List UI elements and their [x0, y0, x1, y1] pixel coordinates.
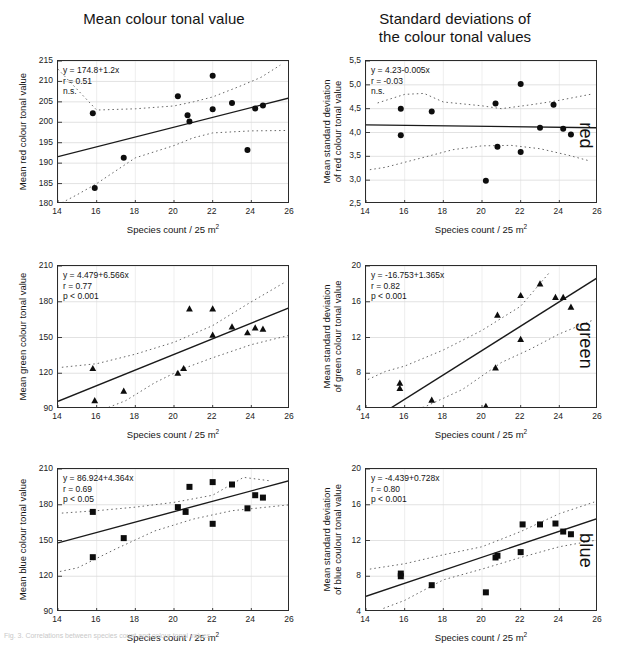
x-tick-label: 16 [399, 411, 408, 421]
y-tick-label: 4 [329, 403, 361, 413]
x-tick-label: 26 [284, 411, 293, 421]
x-tick-label: 20 [168, 411, 177, 421]
annotation-equation: y = 86.924+4.364x [63, 473, 133, 484]
plot-canvas-red-mean [58, 61, 289, 203]
y-axis-label-line1: Mean standard deviation [321, 468, 332, 611]
y-tick-label: 90 [21, 606, 53, 616]
data-point [90, 554, 96, 560]
data-point [493, 554, 499, 560]
data-point [252, 492, 258, 498]
data-point [482, 403, 489, 408]
annotation-p: n.s. [63, 86, 119, 97]
data-point [520, 521, 526, 527]
x-tick-label: 20 [476, 206, 485, 216]
data-point [186, 484, 192, 490]
annotation-equation: y = -4.439+0.728x [371, 473, 440, 484]
x-tick-label: 26 [592, 206, 601, 216]
data-point [398, 106, 404, 112]
y-axis-label-green-sd: Mean standard deviationof green colour t… [321, 265, 343, 408]
data-point [568, 304, 575, 310]
data-point [396, 379, 403, 385]
y-tick-label: 20 [329, 463, 361, 473]
data-point [492, 364, 499, 370]
data-point [428, 396, 435, 402]
annotation-equation: y = 174.8+1.2x [63, 65, 119, 76]
data-point [183, 509, 189, 515]
figure-caption: Fig. 3. Correlations between species cou… [4, 632, 212, 639]
confidence-band-upper [58, 65, 280, 110]
column-title-left: Mean colour tonal value [24, 10, 304, 28]
confidence-band-upper [368, 272, 550, 379]
annotation-red-mean: y = 174.8+1.2xr = 0.51n.s. [63, 65, 119, 97]
x-axis-label-superscript: 2 [216, 631, 220, 638]
x-axis-label-superscript: 2 [216, 223, 220, 230]
x-axis-label-red-mean: Species count / 25 m2 [57, 223, 289, 235]
x-tick-label: 14 [360, 411, 369, 421]
confidence-band-upper [378, 93, 591, 108]
row-label-red: red [575, 106, 596, 166]
data-point [560, 126, 566, 132]
data-point [121, 535, 127, 541]
data-point [396, 385, 403, 391]
data-point [518, 149, 524, 155]
y-tick-label: 90 [21, 403, 53, 413]
axis-ticks-green-sd: 4812162014161820222426 [0, 0, 618, 647]
column-title-right-line1: Standard deviations of [330, 10, 580, 28]
annotation-p: p < 0.001 [371, 494, 440, 505]
x-axis-label-text: Species count / 25 m [435, 632, 524, 643]
confidence-band-lower [104, 335, 289, 408]
y-tick-label: 5,5 [329, 55, 361, 65]
x-tick-label: 14 [360, 614, 369, 624]
data-point [92, 185, 98, 191]
y-axis-label-red-sd: Mean standard deviationof red colour ton… [321, 60, 343, 203]
data-point [210, 106, 216, 112]
data-point [537, 280, 544, 286]
y-tick-label: 210 [21, 463, 53, 473]
x-tick-label: 26 [592, 411, 601, 421]
x-axis-label-green-sd: Species count / 25 m2 [365, 428, 597, 440]
data-point [518, 549, 524, 555]
data-point [244, 329, 251, 335]
x-tick-label: 22 [207, 206, 216, 216]
data-point [493, 100, 499, 106]
x-axis-label-superscript: 2 [524, 223, 528, 230]
confidence-band-lower [383, 541, 594, 609]
plot-area-green-sd [365, 265, 597, 408]
column-title-right-line2: the colour tonal values [330, 28, 580, 46]
annotation-red-sd: y = 4.23-0.005xr = -0.03n.s. [371, 65, 430, 97]
x-tick-label: 14 [360, 206, 369, 216]
y-tick-label: 4 [329, 606, 361, 616]
regression-line [366, 277, 597, 408]
x-axis-label-text: Species count / 25 m [435, 429, 524, 440]
axis-ticks-blue-mean: 9012015018021014161820222426 [0, 0, 618, 647]
confidence-band-lower [391, 320, 594, 408]
x-tick-label: 26 [592, 614, 601, 624]
data-point [398, 571, 404, 577]
data-point [91, 397, 98, 403]
data-point [494, 553, 500, 559]
data-point [209, 305, 216, 311]
x-axis-label-text: Species count / 25 m [127, 429, 216, 440]
x-tick-label: 22 [515, 614, 524, 624]
panel-green-sd: 4812162014161820222426y = -16.753+1.365x… [0, 0, 618, 647]
y-tick-label: 190 [21, 157, 53, 167]
y-tick-label: 2,5 [329, 198, 361, 208]
x-axis-label-superscript: 2 [524, 631, 528, 638]
regression-line [366, 125, 597, 128]
regression-line [58, 98, 289, 157]
annotation-r: r = -0.03 [371, 76, 430, 87]
annotation-blue-sd: y = -4.439+0.728xr = 0.80p < 0.001 [371, 473, 440, 505]
data-point [518, 81, 524, 87]
plot-canvas-green-sd [366, 266, 597, 408]
x-tick-label: 24 [246, 614, 255, 624]
y-axis-label-line1: Mean standard deviation [321, 60, 332, 203]
data-point [121, 155, 127, 161]
y-tick-label: 4,0 [329, 127, 361, 137]
regression-line [58, 307, 289, 401]
y-tick-label: 8 [329, 570, 361, 580]
axis-ticks-green-mean: 9012015018021014161820222426 [0, 0, 618, 647]
y-tick-label: 12 [329, 332, 361, 342]
regression-line [58, 480, 289, 542]
data-point [209, 332, 216, 338]
annotation-equation: y = 4.23-0.005x [371, 65, 430, 76]
